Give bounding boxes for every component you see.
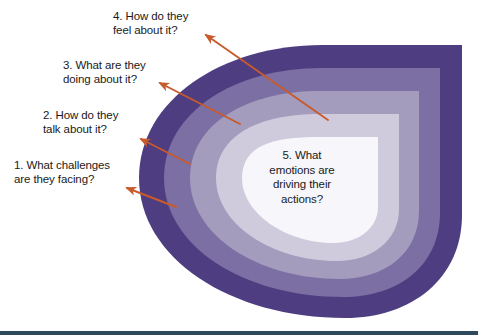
callout-label-1: 1. What challenges are they facing? [14, 158, 140, 186]
diagram-canvas: 4. How do they feel about it? 3. What ar… [0, 0, 478, 335]
callout-label-2: 2. How do they talk about it? [43, 108, 145, 136]
center-core-label: 5. What emotions are driving their actio… [248, 148, 356, 206]
bottom-divider [0, 331, 478, 335]
callout-label-4: 4. How do they feel about it? [113, 9, 217, 37]
callout-label-3: 3. What are they doing about it? [63, 58, 175, 86]
